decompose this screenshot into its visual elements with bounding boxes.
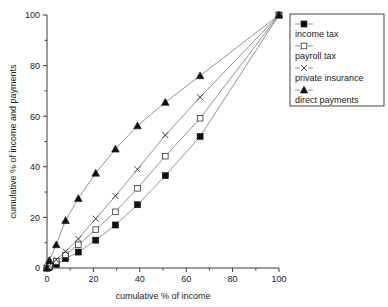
x-tick-label: 20 <box>88 274 98 284</box>
series-line <box>47 15 279 268</box>
data-point-open-square <box>113 209 119 215</box>
legend-label: payroll tax <box>295 51 337 61</box>
data-point-open-square <box>76 242 82 248</box>
data-point-filled-square <box>112 222 118 228</box>
data-point-filled-triangle <box>52 241 60 248</box>
x-tick-label: 40 <box>135 274 145 284</box>
data-point-filled-triangle <box>75 195 83 202</box>
x-tick-label: 0 <box>44 274 49 284</box>
series-payroll-tax <box>44 12 282 271</box>
data-point-x-cross <box>162 132 168 138</box>
y-tick-label: 80 <box>30 61 40 71</box>
series-line <box>47 15 279 268</box>
series-line <box>47 15 279 268</box>
series-private-insurance <box>44 12 282 271</box>
x-tick-label: 100 <box>271 274 286 284</box>
series-direct-payments <box>43 11 283 271</box>
data-point-filled-triangle <box>134 122 142 129</box>
data-point-x-cross <box>134 166 140 172</box>
legend-marker-filled-square <box>301 21 307 27</box>
data-point-filled-square <box>197 133 203 139</box>
axes-group <box>47 15 279 268</box>
data-point-x-cross <box>112 193 118 199</box>
legend-marker-open-square <box>301 43 307 49</box>
data-point-x-cross <box>93 216 99 222</box>
lorenz-curve-chart: 020406080100 020406080100 cumulative % o… <box>0 0 388 307</box>
chart-canvas: 020406080100 020406080100 cumulative % o… <box>0 0 388 307</box>
y-tick-label: 40 <box>30 162 40 172</box>
data-point-filled-triangle <box>162 98 170 105</box>
data-point-open-square <box>163 153 169 159</box>
y-tick-label: 100 <box>25 10 40 20</box>
data-point-open-square <box>135 186 141 192</box>
y-tick-label: 0 <box>35 263 40 273</box>
data-point-filled-square <box>162 173 168 179</box>
chart-legend: income taxpayroll taxprivate insurancedi… <box>290 14 384 106</box>
x-axis-title: cumulative % of income <box>115 291 210 301</box>
x-axis-ticks <box>47 268 279 272</box>
x-axis-tick-labels: 020406080100 <box>44 274 286 284</box>
y-tick-label: 20 <box>30 213 40 223</box>
data-point-filled-square <box>134 202 140 208</box>
data-point-filled-triangle <box>62 217 70 224</box>
x-tick-label: 80 <box>228 274 238 284</box>
y-axis-ticks <box>43 15 47 268</box>
data-point-open-square <box>93 227 99 233</box>
data-point-filled-square <box>93 237 99 243</box>
x-tick-label: 60 <box>181 274 191 284</box>
legend-label: private insurance <box>295 73 364 83</box>
legend-label: income tax <box>295 29 339 39</box>
y-axis-tick-labels: 020406080100 <box>25 10 40 273</box>
series-line <box>47 15 279 268</box>
data-point-x-cross <box>75 236 81 242</box>
data-point-filled-triangle <box>196 72 204 79</box>
legend-label: direct payments <box>295 95 359 105</box>
data-point-x-cross <box>197 94 203 100</box>
data-point-open-square <box>197 115 203 121</box>
data-point-filled-square <box>75 249 81 255</box>
y-tick-label: 60 <box>30 112 40 122</box>
data-series-group <box>43 11 283 271</box>
series-income-tax <box>44 12 282 271</box>
y-axis-title: cumulative % of income and payments <box>8 64 18 219</box>
